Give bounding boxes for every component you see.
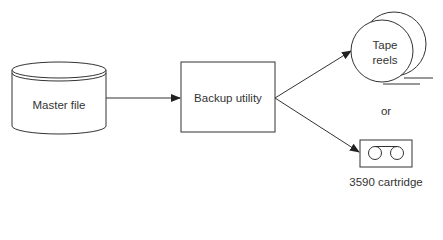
or-connector-label: or [381,105,391,118]
tape-reels-label-line2: reels [373,54,398,67]
backup-utility-label: Backup utility [194,92,262,105]
arrow-backup-to-tape [275,51,351,98]
cartridge-label: 3590 cartridge [349,176,423,189]
cartridge-icon [360,140,412,167]
arrow-backup-to-cartridge [275,98,359,152]
master-file-label: Master file [32,99,85,112]
tape-reels-label-line1: Tape [373,39,398,52]
